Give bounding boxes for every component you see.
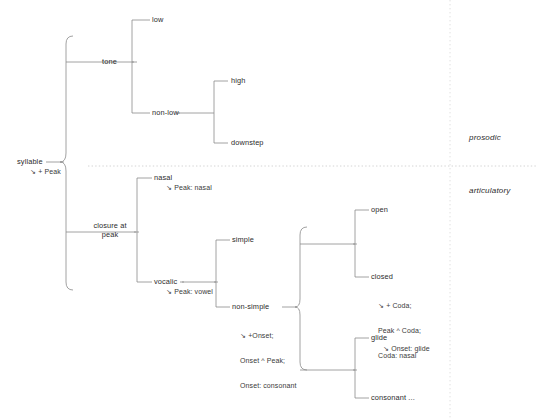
annotation-non-simple-line1: ↘ +Onset; bbox=[240, 332, 296, 340]
node-open[interactable]: open bbox=[371, 205, 388, 214]
node-downstep[interactable]: downstep bbox=[231, 138, 264, 147]
brace-syllable bbox=[60, 36, 73, 290]
node-simple[interactable]: simple bbox=[232, 235, 254, 244]
node-vocalic[interactable]: vocalic bbox=[154, 277, 177, 286]
annotation-closed-line3: Coda: nasal bbox=[378, 352, 421, 360]
annotation-non-simple-line2: Onset ^ Peak; bbox=[240, 357, 296, 365]
node-syllable[interactable]: syllable bbox=[17, 157, 43, 166]
syllable-structure-diagram: syllable ↘ + Peak tone low non-low high … bbox=[0, 0, 537, 419]
bracket-nonlow-children bbox=[214, 81, 222, 143]
bracket-glide-consonant bbox=[355, 338, 363, 398]
annotation-vocalic: ↘ Peak: vowel bbox=[166, 288, 213, 296]
node-closure-at-peak[interactable]: closure at peak bbox=[86, 222, 134, 239]
annotation-closed: ↘ + Coda; Peak ^ Coda; Coda: nasal bbox=[378, 285, 421, 377]
region-label-articulatory: articulatory bbox=[469, 186, 511, 195]
node-closed[interactable]: closed bbox=[371, 272, 393, 281]
node-consonant[interactable]: consonant ... bbox=[371, 393, 415, 402]
node-nasal[interactable]: nasal bbox=[154, 173, 172, 182]
node-closure-at-peak-line2: peak bbox=[86, 231, 134, 240]
annotation-non-simple: ↘ +Onset; Onset ^ Peak; Onset: consonant bbox=[240, 315, 296, 407]
annotation-syllable: ↘ + Peak bbox=[30, 168, 61, 176]
annotation-nasal: ↘ Peak: nasal bbox=[166, 184, 212, 192]
bracket-open-closed bbox=[355, 210, 363, 277]
annotation-closed-line1: ↘ + Coda; bbox=[378, 302, 421, 310]
bracket-vocalic-children bbox=[216, 240, 224, 307]
node-glide[interactable]: glide bbox=[371, 333, 387, 342]
node-tone[interactable]: tone bbox=[102, 57, 117, 66]
bracket-tone-children bbox=[132, 20, 140, 113]
node-high[interactable]: high bbox=[231, 76, 245, 85]
annotation-glide: ↘ Onset: glide bbox=[383, 345, 430, 353]
brace-nonsimple bbox=[295, 227, 307, 370]
bracket-closure-children bbox=[137, 178, 145, 282]
node-low[interactable]: low bbox=[152, 15, 163, 24]
annotation-non-simple-line3: Onset: consonant bbox=[240, 382, 296, 390]
node-non-low[interactable]: non-low bbox=[152, 108, 179, 117]
node-non-simple[interactable]: non-simple bbox=[232, 302, 269, 311]
region-label-prosodic: prosodic bbox=[469, 133, 501, 142]
